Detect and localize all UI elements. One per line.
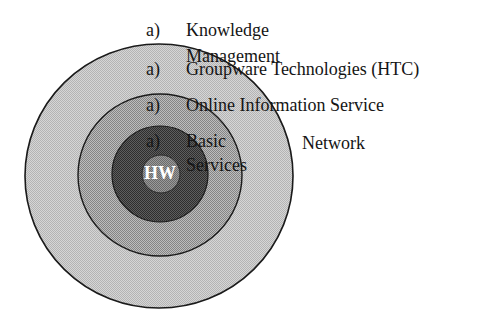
layered-services-diagram: a) Knowledge Management a) Groupware Tec… — [0, 0, 479, 329]
label-marker-knowledge-management: a) — [146, 21, 160, 39]
label-groupware-technologies: Groupware Technologies (HTC) — [186, 60, 419, 78]
label-basic: Basic — [186, 132, 226, 150]
label-marker-groupware: a) — [146, 60, 160, 78]
label-network: Network — [302, 134, 365, 152]
label-online-information-service: Online Information Service — [186, 96, 384, 114]
label-knowledge: Knowledge — [186, 21, 269, 39]
label-marker-basic-services: a) — [146, 132, 160, 150]
label-marker-online-information: a) — [146, 96, 160, 114]
core-label-hw: HW — [144, 164, 176, 182]
label-services: Services — [186, 156, 247, 174]
